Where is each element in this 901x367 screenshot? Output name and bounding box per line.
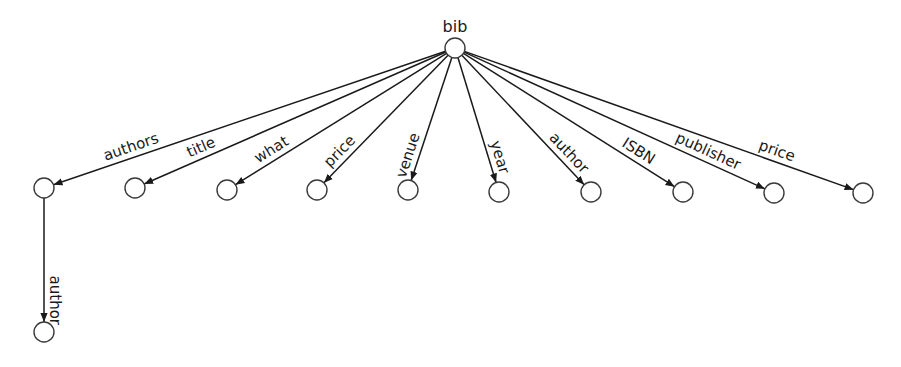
edge-label-price: price xyxy=(320,131,359,170)
edge-price xyxy=(324,55,448,183)
tree-node xyxy=(217,180,237,200)
tree-node xyxy=(398,180,418,200)
edge-label-title: title xyxy=(184,133,218,161)
tree-node xyxy=(489,182,509,202)
edge-year xyxy=(458,58,496,183)
edge-label-authors: authors xyxy=(101,129,161,165)
tree-node xyxy=(34,178,54,198)
edges xyxy=(44,51,854,322)
tree-node xyxy=(853,183,873,203)
edge-label-isbn: ISBN xyxy=(619,134,659,168)
tree-node xyxy=(307,180,327,200)
edge-label-author: author xyxy=(46,276,64,326)
nodes xyxy=(34,38,873,342)
tree-diagram: authorstitlewhatpricevenueyearauthorISBN… xyxy=(0,0,901,367)
tree-node xyxy=(673,182,693,202)
root-node xyxy=(445,38,465,58)
tree-node xyxy=(581,182,601,202)
edge-venue xyxy=(411,57,452,180)
edge-label-year: year xyxy=(486,138,513,176)
tree-node xyxy=(34,322,54,342)
edge-label-author: author xyxy=(546,129,594,178)
edge-labels: authorstitlewhatpricevenueyearauthorISBN… xyxy=(46,128,798,325)
tree-node xyxy=(764,183,784,203)
tree-node xyxy=(125,178,145,198)
edge-label-price: price xyxy=(756,136,797,165)
edge-author xyxy=(462,55,584,184)
root-label: bib xyxy=(443,17,468,36)
